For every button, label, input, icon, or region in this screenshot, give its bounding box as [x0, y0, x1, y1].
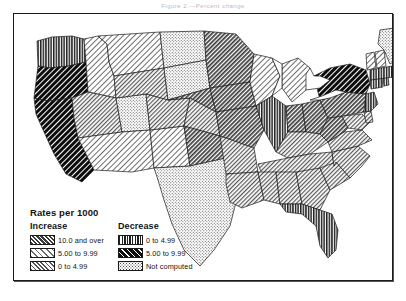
state-VT[interactable]: [366, 52, 376, 70]
swatch-decrease-5-to-999: [118, 248, 143, 258]
map-legend: Rates per 1000 Increase 10.0 and over 5.…: [30, 207, 226, 271]
swatch-increase-0-to-499: [30, 261, 55, 271]
legend-heading-increase: Increase: [30, 221, 104, 231]
state-NV[interactable]: [72, 92, 122, 138]
state-UT[interactable]: [116, 94, 150, 132]
figure-caption-top: Figure 2.—Percent change: [0, 0, 406, 13]
swatch-not-computed: [118, 261, 143, 271]
state-MN[interactable]: [204, 31, 254, 88]
state-NJ[interactable]: [364, 92, 378, 112]
map-frame-border: Rates per 1000 Increase 10.0 and over 5.…: [13, 13, 393, 281]
state-DE[interactable]: [364, 111, 373, 123]
map-figure: Figure 2.—Percent change: [0, 0, 406, 301]
legend-column-increase: Increase 10.0 and over 5.00 to 9.99 0 to…: [30, 221, 104, 271]
state-FL[interactable]: [280, 204, 338, 258]
legend-label-not-computed: Not computed: [146, 262, 193, 271]
legend-label-decrease-5-to-999: 5.00 to 9.99: [146, 249, 186, 258]
legend-label-increase-0-to-499: 0 to 4.99: [58, 262, 87, 271]
state-LA[interactable]: [226, 172, 264, 208]
state-NH[interactable]: [375, 50, 386, 68]
legend-item-decrease-0-to-499[interactable]: 0 to 4.99: [118, 235, 193, 245]
legend-label-decrease-0-to-499: 0 to 4.99: [146, 236, 175, 245]
legend-item-increase-10-and-over[interactable]: 10.0 and over: [30, 235, 104, 245]
legend-column-decrease: Decrease 0 to 4.99 5.00 to 9.99 Not comp…: [118, 221, 193, 271]
swatch-increase-5-to-999: [30, 248, 55, 258]
state-WA[interactable]: [37, 36, 86, 68]
legend-label-increase-10-and-over: 10.0 and over: [58, 236, 104, 245]
legend-item-increase-5-to-999[interactable]: 5.00 to 9.99: [30, 248, 104, 258]
legend-heading-decrease: Decrease: [118, 221, 193, 231]
legend-title: Rates per 1000: [30, 207, 226, 218]
legend-item-decrease-5-to-999[interactable]: 5.00 to 9.99: [118, 248, 193, 258]
legend-item-not-computed[interactable]: Not computed: [118, 261, 193, 271]
swatch-decrease-0-to-499: [118, 235, 143, 245]
state-NM[interactable]: [150, 126, 190, 168]
swatch-increase-10-and-over: [30, 235, 55, 245]
legend-label-increase-5-to-999: 5.00 to 9.99: [58, 249, 98, 258]
legend-item-increase-0-to-499[interactable]: 0 to 4.99: [30, 261, 104, 271]
